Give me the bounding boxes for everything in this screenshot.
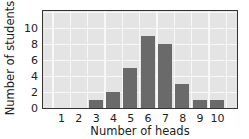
x-tick-label: 6	[139, 113, 157, 124]
x-tick-label: 4	[104, 113, 122, 124]
x-axis-label: Number of heads	[42, 125, 238, 137]
bar-9	[193, 100, 207, 108]
bar-10	[210, 100, 224, 108]
x-tick-label: 5	[122, 113, 140, 124]
y-tick-label: 0	[24, 103, 38, 114]
x-tick-label: 10	[208, 113, 226, 124]
grid-line-vertical	[52, 11, 54, 108]
y-axis-label: Number of students	[4, 1, 16, 116]
x-tick-label: 7	[156, 113, 174, 124]
grid-line-vertical	[208, 11, 210, 108]
grid-line-vertical	[226, 11, 228, 108]
bar-8	[175, 84, 189, 108]
bar-3	[89, 100, 103, 108]
grid-line-vertical	[70, 11, 72, 108]
grid-line-vertical	[87, 11, 89, 108]
y-tick-label: 6	[24, 55, 38, 66]
y-tick-label: 2	[24, 87, 38, 98]
plot-area	[42, 10, 238, 109]
grid-line-vertical	[191, 11, 193, 108]
bar-6	[141, 36, 155, 108]
x-tick-label: 2	[70, 113, 88, 124]
y-tick-label: 10	[24, 23, 38, 34]
x-tick-label: 9	[191, 113, 209, 124]
y-tick-label: 4	[24, 71, 38, 82]
y-tick-label: 8	[24, 39, 38, 50]
x-tick-label: 8	[174, 113, 192, 124]
x-tick-label: 1	[53, 113, 71, 124]
bar-5	[123, 68, 137, 108]
bar-4	[106, 92, 120, 108]
bar-7	[158, 44, 172, 108]
x-tick-label: 3	[87, 113, 105, 124]
